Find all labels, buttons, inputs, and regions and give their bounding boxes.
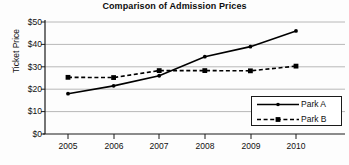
data-point bbox=[294, 64, 299, 69]
legend-swatch-dashed-line bbox=[257, 112, 299, 127]
data-point bbox=[66, 75, 71, 80]
data-point bbox=[112, 84, 116, 88]
legend-label-park-b: Park B bbox=[301, 115, 327, 124]
legend-item-park-b: Park B bbox=[252, 112, 343, 127]
series-park-a bbox=[66, 29, 298, 96]
line-chart: Comparison of Admission Prices Ticket Pr… bbox=[0, 0, 349, 165]
data-point bbox=[249, 45, 253, 49]
plot-area bbox=[0, 0, 349, 165]
data-point bbox=[202, 68, 207, 73]
legend-label-park-a: Park A bbox=[301, 100, 326, 109]
data-point bbox=[248, 68, 253, 73]
chart-legend: Park A Park B bbox=[251, 96, 342, 126]
data-point bbox=[203, 55, 207, 59]
data-point bbox=[111, 75, 116, 80]
data-point bbox=[294, 29, 298, 33]
legend-item-park-a: Park A bbox=[252, 97, 343, 112]
data-point bbox=[66, 92, 70, 96]
data-point bbox=[157, 74, 161, 78]
data-point bbox=[157, 68, 162, 73]
legend-swatch-solid-line bbox=[257, 97, 299, 112]
